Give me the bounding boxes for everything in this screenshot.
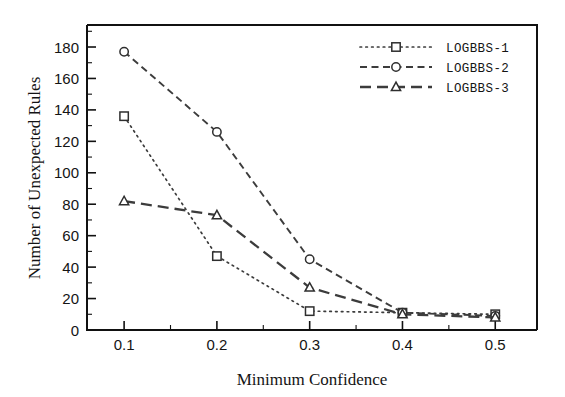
x-tick-label: 0.1 bbox=[114, 336, 135, 353]
x-tick-label: 0.2 bbox=[206, 336, 227, 353]
y-tick-label: 20 bbox=[62, 290, 79, 307]
y-tick-label: 140 bbox=[54, 101, 79, 118]
x-axis-ticks bbox=[124, 321, 495, 330]
data-point bbox=[120, 48, 128, 56]
y-axis-tick-labels: 020406080100120140160180 bbox=[54, 39, 79, 339]
x-tick-label: 0.3 bbox=[299, 336, 320, 353]
legend-item-logbbs-3: LOGBBS-3 bbox=[360, 82, 509, 96]
series-logbbs-2 bbox=[120, 48, 500, 321]
data-point bbox=[213, 128, 221, 136]
legend-item-logbbs-2: LOGBBS-2 bbox=[360, 62, 509, 76]
y-tick-label: 100 bbox=[54, 164, 79, 181]
line-chart-canvas: 020406080100120140160180 0.10.20.30.40.5… bbox=[0, 0, 565, 397]
x-axis-tick-labels: 0.10.20.30.40.5 bbox=[114, 336, 506, 353]
legend-marker-sample bbox=[392, 43, 400, 51]
legend-label: LOGBBS-1 bbox=[446, 42, 509, 56]
data-point bbox=[305, 255, 313, 263]
series-line bbox=[124, 52, 495, 316]
y-tick-label: 80 bbox=[62, 196, 79, 213]
y-axis-title: Number of Unexpected Rules bbox=[25, 77, 44, 280]
chart-legend: LOGBBS-1LOGBBS-2LOGBBS-3 bbox=[360, 42, 509, 96]
x-tick-label: 0.4 bbox=[392, 336, 413, 353]
legend-label: LOGBBS-3 bbox=[446, 82, 509, 96]
y-tick-label: 120 bbox=[54, 133, 79, 150]
y-tick-label: 60 bbox=[62, 227, 79, 244]
data-point bbox=[120, 112, 128, 120]
y-tick-label: 180 bbox=[54, 39, 79, 56]
legend-item-logbbs-1: LOGBBS-1 bbox=[360, 42, 509, 56]
legend-marker-sample bbox=[392, 63, 400, 71]
y-tick-label: 160 bbox=[54, 70, 79, 87]
y-tick-label: 40 bbox=[62, 259, 79, 276]
y-tick-label: 0 bbox=[71, 322, 79, 339]
data-point bbox=[305, 307, 313, 315]
data-point bbox=[213, 252, 221, 260]
chart-figure: 020406080100120140160180 0.10.20.30.40.5… bbox=[0, 0, 565, 397]
data-series-layer bbox=[119, 48, 499, 321]
y-axis-ticks bbox=[87, 31, 96, 330]
x-axis-title: Minimum Confidence bbox=[237, 370, 388, 389]
x-tick-label: 0.5 bbox=[485, 336, 506, 353]
legend-label: LOGBBS-2 bbox=[446, 62, 509, 76]
